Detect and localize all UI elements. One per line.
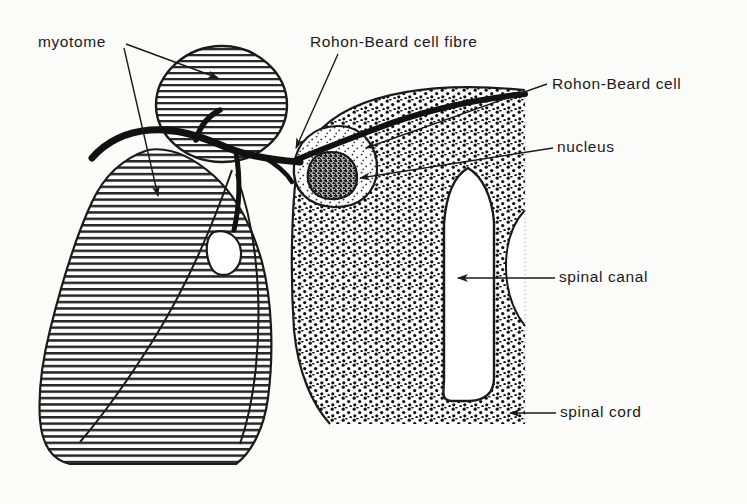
label-spinal-canal: spinal canal xyxy=(559,269,648,285)
nucleus-shape xyxy=(308,152,357,199)
label-rohon-beard-cell-fibre: Rohon-Beard cell fibre xyxy=(310,34,477,50)
anatomical-figure: myotome Rohon-Beard cell fibre Rohon-Bea… xyxy=(0,0,747,504)
fibre-descending-branch xyxy=(234,152,239,230)
label-spinal-cord: spinal cord xyxy=(560,404,642,420)
label-rohon-beard-cell: Rohon-Beard cell xyxy=(552,76,681,92)
label-nucleus: nucleus xyxy=(557,139,615,155)
rohon-beard-cell-structure xyxy=(294,126,377,207)
myotome-lobe xyxy=(207,231,241,275)
label-myotome: myotome xyxy=(38,34,106,50)
spinal-canal-shape xyxy=(443,168,494,401)
spinal-canal-structure xyxy=(443,168,494,401)
